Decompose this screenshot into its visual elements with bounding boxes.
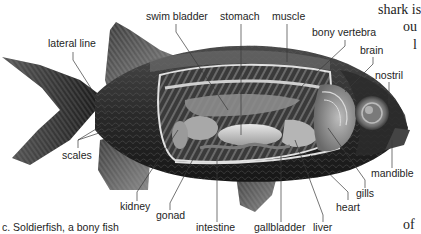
figure-caption: c. Soldierfish, a bony fish (2, 222, 119, 233)
label-heart: heart (336, 202, 360, 213)
label-gonad: gonad (156, 210, 185, 221)
label-gills: gills (356, 188, 374, 199)
page-text-fragment-1: shark is (378, 3, 421, 17)
label-muscle: muscle (272, 11, 305, 22)
label-stomach: stomach (220, 11, 260, 22)
label-kidney: kidney (120, 201, 150, 212)
label-intestine: intestine (196, 222, 235, 233)
label-gallbladder: gallbladder (254, 222, 305, 233)
label-brain: brain (360, 45, 383, 56)
label-swim-bladder: swim bladder (146, 11, 208, 22)
label-scales: scales (62, 150, 92, 161)
stomach (218, 124, 282, 146)
page-text-fragment-3: l (413, 38, 417, 52)
label-bony-vertebra: bony vertebra (312, 27, 376, 38)
label-nostril: nostril (375, 70, 403, 81)
label-liver: liver (313, 222, 332, 233)
eye (355, 96, 389, 130)
page-text-fragment-2: ou (403, 20, 417, 34)
label-mandible: mandible (371, 168, 414, 179)
page-text-fragment-4: of (403, 218, 415, 232)
label-lateral-line: lateral line (48, 38, 96, 49)
